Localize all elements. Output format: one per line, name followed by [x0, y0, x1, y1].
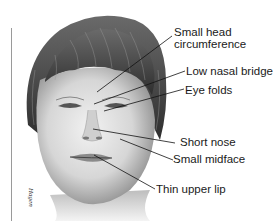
face-illustration-figure: Small head circumference Low nasal bridg…: [0, 0, 278, 221]
artist-signature: Hagen: [27, 188, 35, 207]
label-eye-folds: Eye folds: [185, 84, 232, 96]
label-line: circumference: [174, 38, 246, 50]
label-thin-upper-lip: Thin upper lip: [156, 183, 226, 195]
label-short-nose: Short nose: [180, 136, 236, 148]
label-low-nasal-bridge: Low nasal bridge: [186, 65, 273, 77]
label-small-midface: Small midface: [173, 153, 245, 165]
label-line: Small head: [174, 26, 246, 38]
label-small-head-circumference: Small head circumference: [174, 26, 246, 50]
